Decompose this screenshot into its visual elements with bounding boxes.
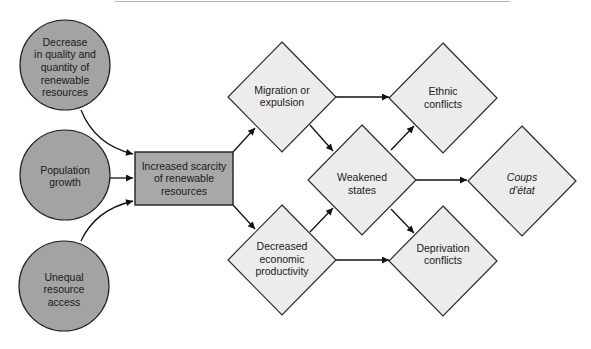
node-deprivation-conflicts: Deprivation conflicts	[389, 206, 497, 316]
node-label: Weakened	[337, 171, 387, 183]
node-label: Migration or	[254, 84, 310, 96]
edge-scarcity-to-productivity	[233, 205, 255, 229]
node-population-growth: Population growth	[20, 130, 110, 220]
node-label: growth	[49, 176, 81, 188]
node-label: Decreased	[257, 240, 308, 252]
node-coups: Coups d'état	[468, 126, 576, 236]
node-label: Decrease	[43, 36, 88, 48]
node-label: conflicts	[424, 254, 462, 266]
edge-productivity-to-weakened	[310, 208, 333, 232]
node-label: conflicts	[424, 98, 462, 110]
node-label: Population	[40, 164, 90, 176]
node-label: economic	[260, 253, 305, 265]
node-label: resources	[161, 185, 207, 197]
node-label: renewable	[41, 74, 90, 86]
node-label: Unequal	[44, 271, 83, 283]
node-label: Ethnic	[428, 85, 457, 97]
node-label: Deprivation	[416, 242, 469, 254]
node-label: states	[348, 184, 376, 196]
edge-weakened-to-deprivation	[391, 209, 414, 233]
node-label: Coups	[507, 171, 538, 183]
node-unequal-access: Unequal resource access	[19, 241, 109, 331]
node-label: productivity	[255, 265, 309, 277]
node-label: access	[48, 296, 81, 308]
node-ethnic-conflicts: Ethnic conflicts	[389, 43, 497, 153]
edge-weakened-to-ethnic	[391, 126, 414, 150]
node-label: Increased scarcity	[142, 160, 227, 172]
edge-scarcity-to-migration	[233, 128, 255, 152]
node-label: resources	[42, 86, 88, 98]
node-increased-scarcity: Increased scarcity of renewable resource…	[135, 152, 233, 205]
node-label: resource	[44, 283, 85, 295]
node-label: quantity of	[41, 61, 90, 73]
node-label: d'état	[509, 184, 535, 196]
node-label: expulsion	[260, 96, 305, 108]
node-label: of renewable	[154, 172, 214, 184]
node-decrease-quality: Decrease in quality and quantity of rene…	[20, 20, 110, 110]
edge-migration-to-weakened	[310, 125, 333, 151]
causal-diagram: Decrease in quality and quantity of rene…	[0, 0, 591, 349]
node-label: in quality and	[34, 48, 96, 60]
